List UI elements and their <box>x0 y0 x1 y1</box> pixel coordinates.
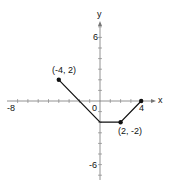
point-label-a: (-4, 2) <box>52 66 76 75</box>
tick-label-neg6: -6 <box>89 161 97 170</box>
tick-label-neg8: -8 <box>7 104 15 113</box>
point-label-b: (2, -2) <box>118 127 142 136</box>
tick-label-6: 6 <box>93 33 98 42</box>
x-axis-arrow-icon <box>151 99 156 103</box>
tick-label-4: 4 <box>139 104 144 113</box>
x-axis-label: x <box>158 96 163 105</box>
endpoint-dot <box>118 120 122 124</box>
y-axis-arrow-icon <box>98 21 102 26</box>
tick-label-0: 0 <box>92 104 97 113</box>
y-axis-label: y <box>97 10 102 19</box>
coordinate-graph <box>0 0 172 189</box>
endpoint-dot <box>57 78 61 82</box>
